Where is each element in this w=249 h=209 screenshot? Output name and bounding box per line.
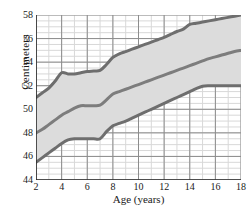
x-tick-label: 2	[24, 182, 48, 192]
x-tick-label: 8	[101, 182, 125, 192]
x-axis-title: Age (years)	[36, 193, 241, 205]
x-tick-label: 16	[203, 182, 227, 192]
plot-area	[36, 15, 241, 180]
x-tick-label: 10	[127, 182, 151, 192]
chart-canvas	[36, 15, 241, 180]
x-tick-label: 6	[75, 182, 99, 192]
x-tick-label: 12	[152, 182, 176, 192]
growth-chart: Centimeters 4446485052545658 24681012141…	[0, 0, 249, 209]
x-tick-label: 14	[178, 182, 202, 192]
x-tick-label: 18	[229, 182, 249, 192]
x-tick-label: 4	[50, 182, 74, 192]
